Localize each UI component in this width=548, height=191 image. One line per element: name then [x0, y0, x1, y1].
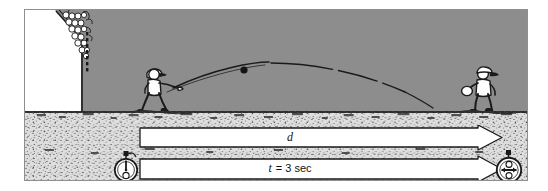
stopwatch-start-icon [110, 150, 142, 181]
stopwatch-stop-icon [491, 148, 527, 181]
thrower-ground-shadow [125, 108, 195, 116]
ball-trajectory-arc [165, 52, 485, 112]
time-value: = 3 sec [276, 162, 312, 174]
time-variable: t [268, 161, 271, 175]
time-label: t= 3 sec [220, 161, 360, 176]
figure-frame: d t= 3 sec [24, 9, 528, 181]
catcher-ground-shadow [453, 108, 523, 116]
baseball [237, 63, 251, 77]
figure-stage: d t= 3 sec [0, 0, 548, 191]
distance-label: d [230, 130, 350, 145]
stadium-bleachers-crowd [25, 10, 105, 111]
